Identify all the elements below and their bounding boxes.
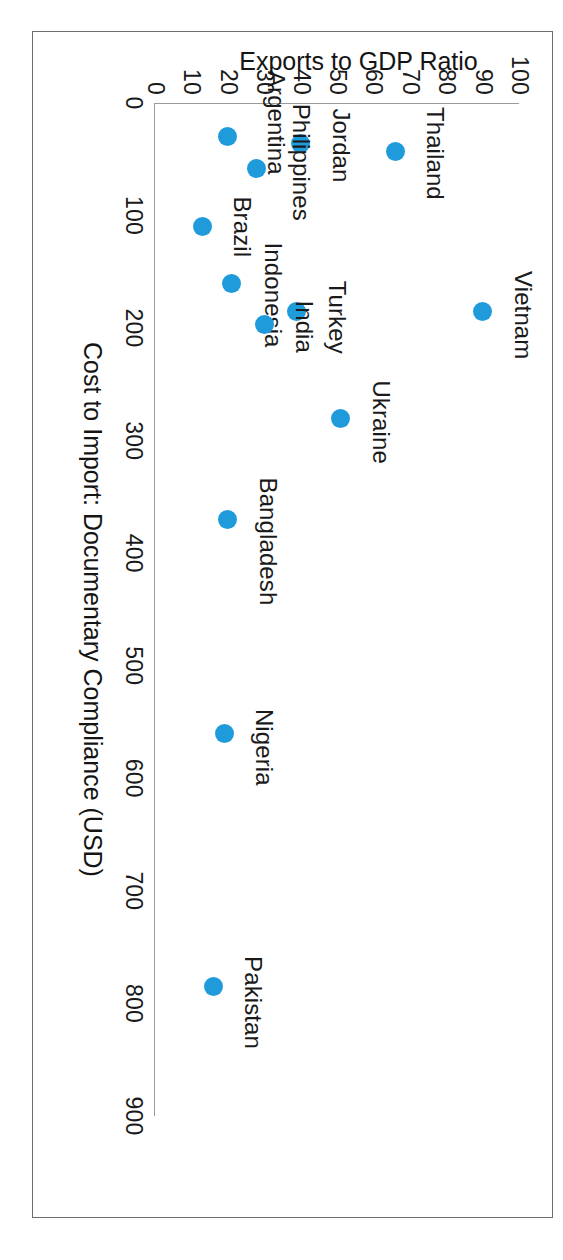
y-axis-title: Exports to GDP Ratio bbox=[177, 47, 541, 76]
data-point[interactable] bbox=[386, 142, 405, 161]
y-tick-label: 0 bbox=[142, 82, 169, 95]
data-point-label: Vietnam bbox=[509, 271, 537, 359]
data-point-label: Nigeria bbox=[250, 709, 278, 786]
data-point-label: Brazil bbox=[228, 196, 256, 257]
x-tick-label: 700 bbox=[120, 871, 147, 910]
data-point[interactable] bbox=[222, 274, 241, 293]
data-point-label: India bbox=[290, 300, 318, 353]
data-point-label: Thailand bbox=[421, 107, 449, 200]
data-point-label: Pakistan bbox=[239, 956, 267, 1049]
data-point[interactable] bbox=[218, 127, 237, 146]
data-point[interactable] bbox=[204, 977, 223, 996]
x-axis-title: Cost to Import: Documentary Compliance (… bbox=[78, 103, 107, 1116]
data-point-label: Turkey bbox=[323, 281, 351, 354]
x-tick-label: 0 bbox=[120, 97, 147, 110]
data-point-label: Ukraine bbox=[367, 380, 395, 463]
data-point-label: Jordan bbox=[327, 109, 355, 183]
x-tick-label: 800 bbox=[120, 984, 147, 1023]
scatter-chart: 0100200300400500600700800900 01020304050… bbox=[32, 31, 553, 1218]
data-point[interactable] bbox=[193, 217, 212, 236]
plot-area: ArgentinaJordanThailandPhilippinesBrazil… bbox=[155, 103, 519, 1116]
data-point[interactable] bbox=[255, 315, 274, 334]
x-tick-label: 100 bbox=[120, 196, 147, 235]
x-tick-label: 400 bbox=[120, 534, 147, 573]
x-tick-label: 300 bbox=[120, 421, 147, 460]
x-tick-label: 500 bbox=[120, 646, 147, 685]
data-point-label: Bangladesh bbox=[254, 478, 282, 606]
data-point-label: Argentina bbox=[262, 71, 290, 175]
data-point-label: Philippines bbox=[287, 104, 315, 221]
data-point[interactable] bbox=[218, 510, 237, 529]
chart-inner: 0100200300400500600700800900 01020304050… bbox=[32, 31, 553, 1218]
data-point[interactable] bbox=[215, 724, 234, 743]
x-tick-label: 200 bbox=[120, 309, 147, 348]
x-tick-label: 600 bbox=[120, 759, 147, 798]
data-point[interactable] bbox=[331, 409, 350, 428]
x-tick-label: 900 bbox=[120, 1097, 147, 1136]
data-point[interactable] bbox=[473, 302, 492, 321]
